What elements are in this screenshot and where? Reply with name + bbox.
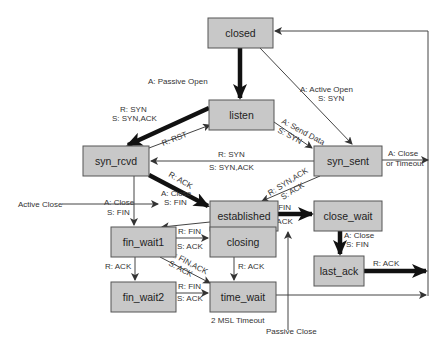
state-close-wait: close_wait [314, 201, 382, 231]
state-fin-wait2-label: fin_wait2 [123, 291, 165, 303]
label-closing-ack: R: ACK [238, 262, 265, 271]
label-close-timeout-2: or Timeout [386, 159, 425, 168]
label-passive-open: A: Passive Open [148, 77, 208, 86]
label-cw-close-2: S: FIN [346, 240, 369, 249]
state-fin-wait1: fin_wait1 [111, 227, 176, 257]
state-fin-wait1-label: fin_wait1 [123, 236, 165, 248]
state-closing: closing [210, 227, 276, 257]
label-cw-close-1: A: Close [344, 231, 375, 240]
label-synsent-synrcvd-2: S: SYN,ACK [209, 163, 255, 172]
label-active-open-2: S: SYN [318, 94, 344, 103]
state-syn-sent: syn_sent [314, 146, 382, 176]
state-syn-sent-label: syn_sent [327, 155, 369, 167]
label-active-close: Active Close [18, 200, 63, 209]
label-rst: R: RST [160, 130, 188, 148]
label-synrcvd-close-2: S: FIN [107, 208, 130, 217]
label-listen-synrcvd-1: R: SYN [120, 105, 147, 114]
label-fw1-ack: R: ACK [105, 262, 132, 271]
label-listen-synrcvd-2: S: SYN,ACK [112, 114, 158, 123]
state-time-wait-label: time_wait [221, 291, 265, 303]
state-syn-rcvd: syn_rcvd [83, 146, 149, 176]
state-closed-label: closed [225, 27, 256, 39]
label-fw1-fin-2: S: ACK [177, 242, 203, 251]
label-close-timeout-1: A: Close [388, 149, 419, 158]
label-msl-timeout: 2 MSL Timeout [211, 316, 265, 325]
state-established-label: established [217, 210, 270, 222]
label-est-close-1: A: Close [161, 189, 192, 198]
label-fw1-fin-1: R: FIN [178, 227, 201, 236]
tcp-state-diagram: A: Passive Open A: Active Open S: SYN R:… [0, 0, 448, 353]
state-last-ack: last_ack [314, 256, 364, 286]
state-close-wait-label: close_wait [323, 210, 372, 222]
state-listen-label: listen [229, 109, 254, 121]
label-lastack-ack: R: ACK [373, 259, 400, 268]
state-listen: listen [209, 100, 274, 130]
state-syn-rcvd-label: syn_rcvd [95, 155, 137, 167]
state-closed: closed [208, 18, 273, 48]
label-fw2-fin-2: S: ACK [177, 294, 203, 303]
state-closing-label: closing [227, 236, 260, 248]
state-last-ack-label: last_ack [320, 265, 359, 277]
label-active-open-1: A: Active Open [300, 85, 353, 94]
label-fw2-fin-1: R: FIN [178, 282, 201, 291]
label-synsent-synrcvd-1: R: SYN [218, 150, 245, 159]
state-time-wait: time_wait [210, 282, 276, 312]
state-fin-wait2: fin_wait2 [111, 282, 176, 312]
label-synrcvd-close-1: A: Close [104, 198, 135, 207]
label-est-close-2: S: FIN [164, 198, 187, 207]
label-passive-close: Passive Close [266, 327, 317, 336]
